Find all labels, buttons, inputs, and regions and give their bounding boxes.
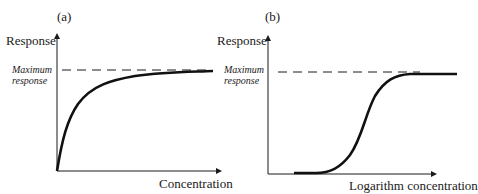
- panel-b-ylabel: Response: [217, 33, 267, 49]
- panel-a-ylabel: Response: [6, 33, 56, 49]
- max-label-line1: Maximum: [12, 64, 52, 75]
- panel-b-label: (b): [265, 9, 280, 25]
- panel-a-axes: [57, 36, 219, 171]
- panel-a-xlabel: Concentration: [159, 176, 233, 192]
- panel-b-xlabel: Logarithm concentration: [349, 178, 478, 194]
- max-label-line2: response: [12, 75, 52, 86]
- panel-a-label: (a): [57, 9, 71, 25]
- panel-a-max-label: Maximum response: [12, 64, 52, 86]
- max-label-line2: response: [224, 75, 264, 86]
- panel-a-curve: [57, 71, 213, 171]
- panel-b-curve: [294, 74, 457, 173]
- max-label-line1: Maximum: [224, 64, 264, 75]
- panel-b-max-label: Maximum response: [224, 64, 264, 86]
